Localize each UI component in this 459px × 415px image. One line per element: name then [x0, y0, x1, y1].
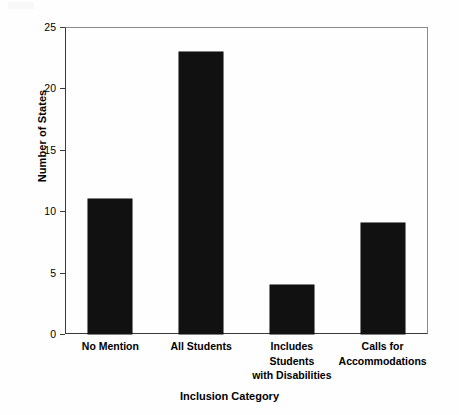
y-tick-mark — [60, 211, 65, 212]
y-tick-mark — [60, 150, 65, 151]
y-tick-mark — [60, 27, 65, 28]
y-tick-mark — [60, 334, 65, 335]
y-tick-label: 20 — [25, 82, 65, 94]
y-tick-label: 15 — [25, 144, 65, 156]
bar-chart-figure: Number of States 0510152025 Inclusion Ca… — [0, 0, 459, 415]
bar — [179, 52, 223, 334]
y-tick-label: 25 — [25, 21, 65, 33]
x-tick-label-line: Calls for — [308, 339, 458, 354]
y-tick-label: 10 — [25, 205, 65, 217]
x-tick-label: Calls forAccommodations — [308, 339, 458, 368]
y-axis-title: Number of States — [36, 56, 48, 216]
x-axis-title: Inclusion Category — [0, 390, 459, 402]
y-tick-mark — [60, 273, 65, 274]
plot-area: 0510152025 — [65, 27, 428, 334]
bar — [270, 285, 314, 334]
y-tick-label: 5 — [25, 267, 65, 279]
x-tick-label-line: Accommodations — [308, 354, 458, 369]
bar — [88, 199, 132, 334]
x-tick-label-line: with Disabilities — [217, 368, 367, 383]
scan-artifact — [8, 2, 34, 9]
y-tick-mark — [60, 88, 65, 89]
bar — [361, 223, 405, 334]
